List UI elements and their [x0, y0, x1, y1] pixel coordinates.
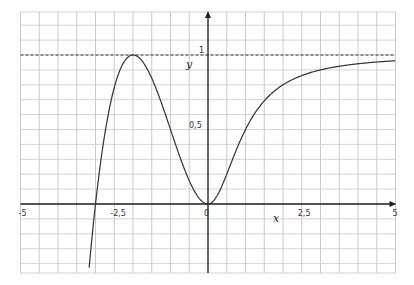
function-curve: [89, 55, 395, 268]
svg-text:-2,5: -2,5: [110, 209, 126, 218]
y-axis-label: y: [185, 58, 193, 71]
svg-text:0,5: 0,5: [189, 121, 202, 130]
svg-text:5: 5: [393, 209, 398, 218]
function-plot: -5-2,502,550,51 x y: [0, 0, 414, 285]
svg-text:1: 1: [199, 46, 204, 55]
x-axis-label: x: [273, 212, 280, 225]
svg-text:0: 0: [204, 209, 209, 218]
svg-text:2,5: 2,5: [298, 209, 311, 218]
svg-text:-5: -5: [19, 209, 27, 218]
